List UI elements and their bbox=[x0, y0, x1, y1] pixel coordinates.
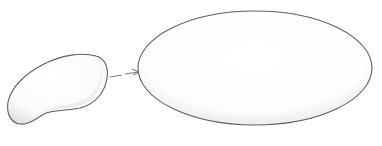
ellipse-shape bbox=[138, 11, 372, 125]
bean-shape bbox=[8, 54, 108, 124]
target-ellipse-node bbox=[138, 11, 372, 125]
connector-arrow bbox=[110, 69, 139, 77]
diagram-canvas bbox=[0, 0, 382, 146]
source-bean-node bbox=[8, 54, 108, 124]
arrow-line bbox=[110, 75, 122, 77]
